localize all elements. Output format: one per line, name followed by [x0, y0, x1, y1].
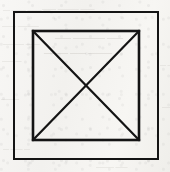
scanned-diagram-page: — —— —— ——— ——— ————— ———— ———— ———— ———… — [0, 0, 170, 172]
square-diagonals-figure — [0, 0, 170, 172]
